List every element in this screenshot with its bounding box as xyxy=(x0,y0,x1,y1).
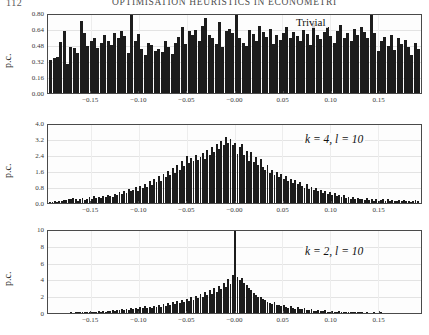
histogram-panel-trivial: p.c. 0.000.160.320.480.640.80 Trivial −0… xyxy=(0,12,429,112)
y-axis-ticks: 0.000.160.320.480.640.80 xyxy=(14,12,46,112)
x-tick-mark xyxy=(283,201,284,204)
y-axis-ticks: 0246810 xyxy=(14,228,46,335)
x-tick-mark xyxy=(331,311,332,314)
y-tick-label: 0.64 xyxy=(32,26,44,34)
y-tick-label: 6 xyxy=(41,260,45,268)
x-tick-label: 0.15 xyxy=(373,96,385,104)
x-tick-label: −0.15 xyxy=(82,206,98,214)
y-tick-label: 0.48 xyxy=(32,42,44,50)
y-tick-label: 0.8 xyxy=(35,184,44,192)
histogram-bar xyxy=(417,201,419,203)
x-tick-label: −0.00 xyxy=(226,206,242,214)
x-tick-mark xyxy=(90,91,91,94)
x-tick-mark xyxy=(283,91,284,94)
x-tick-label: 0.15 xyxy=(373,316,385,324)
x-tick-mark xyxy=(379,91,380,94)
x-tick-label: −0.10 xyxy=(130,96,146,104)
y-tick-label: 2 xyxy=(41,293,45,301)
bar-series xyxy=(48,15,421,93)
x-tick-label: −0.15 xyxy=(82,316,98,324)
panel-annotation: k = 4, l = 10 xyxy=(303,133,365,145)
x-tick-mark xyxy=(235,91,236,94)
y-axis-label: p.c. xyxy=(2,164,13,178)
histogram-bar xyxy=(417,49,420,93)
histogram-figure: p.c. 0.000.160.320.480.640.80 Trivial −0… xyxy=(0,0,429,335)
x-tick-label: 0.10 xyxy=(325,96,337,104)
x-tick-mark xyxy=(186,201,187,204)
x-tick-label: 0.15 xyxy=(373,206,385,214)
x-tick-mark xyxy=(283,311,284,314)
x-tick-label: −0.15 xyxy=(82,96,98,104)
x-axis-ticks: −0.15−0.10−0.05−0.000.050.100.15 xyxy=(47,95,422,107)
y-tick-label: 1.6 xyxy=(35,168,44,176)
x-tick-label: −0.05 xyxy=(178,206,194,214)
x-tick-mark xyxy=(90,311,91,314)
y-tick-label: 0.0 xyxy=(35,200,44,208)
x-tick-label: 0.05 xyxy=(276,206,288,214)
x-tick-label: 0.05 xyxy=(276,316,288,324)
x-tick-mark xyxy=(186,311,187,314)
y-tick-label: 0.00 xyxy=(32,90,44,98)
x-tick-mark xyxy=(331,91,332,94)
x-tick-mark xyxy=(90,201,91,204)
x-tick-mark xyxy=(235,201,236,204)
x-tick-label: −0.10 xyxy=(130,316,146,324)
x-tick-label: 0.05 xyxy=(276,96,288,104)
y-tick-label: 8 xyxy=(41,243,45,251)
panel-annotation: Trivial xyxy=(294,16,328,28)
x-axis-ticks: −0.15−0.10−0.05−0.000.050.100.15 xyxy=(47,205,422,217)
plot-area: k = 2, l = 10 xyxy=(47,230,422,314)
x-tick-mark xyxy=(138,201,139,204)
x-axis-ticks: −0.15−0.10−0.05−0.000.050.100.15 xyxy=(47,315,422,327)
x-tick-mark xyxy=(138,91,139,94)
histogram-panel-k4-l10: p.c. 0.00.81.62.43.24.0 k = 4, l = 10 −0… xyxy=(0,122,429,222)
y-tick-label: 0.16 xyxy=(32,74,44,82)
panel-annotation: k = 2, l = 10 xyxy=(303,245,365,257)
y-tick-label: 0 xyxy=(41,310,45,318)
x-tick-label: 0.10 xyxy=(325,316,337,324)
x-tick-mark xyxy=(379,311,380,314)
y-tick-label: 2.4 xyxy=(35,152,44,160)
y-axis-ticks: 0.00.81.62.43.24.0 xyxy=(14,122,46,222)
x-tick-label: −0.00 xyxy=(226,316,242,324)
x-tick-mark xyxy=(331,201,332,204)
y-axis-label: p.c. xyxy=(2,54,13,68)
x-tick-mark xyxy=(235,311,236,314)
x-tick-label: −0.00 xyxy=(226,96,242,104)
y-tick-label: 10 xyxy=(37,226,44,234)
x-tick-mark xyxy=(186,91,187,94)
y-tick-label: 4 xyxy=(41,276,45,284)
y-tick-label: 4.0 xyxy=(35,120,44,128)
x-tick-label: −0.05 xyxy=(178,316,194,324)
y-axis-label: p.c. xyxy=(2,272,13,286)
bar-series xyxy=(48,231,421,313)
x-tick-mark xyxy=(379,201,380,204)
x-tick-mark xyxy=(138,311,139,314)
y-tick-label: 3.2 xyxy=(35,136,44,144)
x-tick-label: 0.10 xyxy=(325,206,337,214)
plot-area: k = 4, l = 10 xyxy=(47,124,422,204)
y-tick-label: 0.80 xyxy=(32,10,44,18)
histogram-panel-k2-l10: p.c. 0246810 k = 2, l = 10 −0.15−0.10−0.… xyxy=(0,228,429,335)
x-tick-label: −0.10 xyxy=(130,206,146,214)
x-tick-label: −0.05 xyxy=(178,96,194,104)
plot-area: Trivial xyxy=(47,14,422,94)
y-tick-label: 0.32 xyxy=(32,58,44,66)
